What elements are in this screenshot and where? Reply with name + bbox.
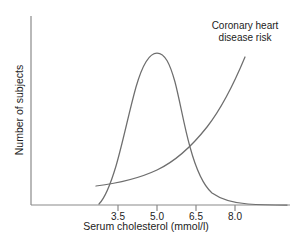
x-tick-label-4: 8.0: [228, 211, 242, 222]
chd-risk-annotation-line-1: Coronary heart: [212, 20, 279, 32]
y-axis-title: Number of subjects: [13, 65, 25, 155]
chd-risk-curve-annotation: Coronary heart disease risk: [212, 20, 279, 44]
chd-risk-curve: [96, 57, 245, 186]
cholesterol-distribution-curve: [99, 53, 287, 205]
chart-figure: 3.5 5.0 6.5 8.0 Serum cholesterol (mmol/…: [0, 0, 301, 243]
chd-risk-annotation-line-2: disease risk: [212, 32, 279, 44]
x-axis-title: Serum cholesterol (mmol/l): [83, 220, 208, 232]
